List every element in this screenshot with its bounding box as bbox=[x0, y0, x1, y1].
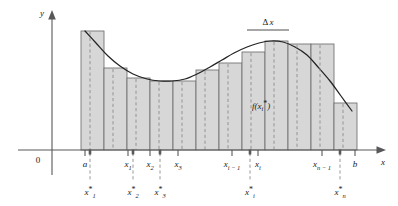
sample-label-x2-star: x*2 bbox=[126, 185, 139, 200]
riemann-rectangle bbox=[311, 44, 334, 150]
riemann-sum-figure: y x 0 ax1x2x3xi − 1xixn − 1b x*1x*2x*3x*… bbox=[0, 0, 398, 206]
riemann-rectangle bbox=[288, 44, 311, 150]
partition-label-a: a bbox=[83, 159, 88, 169]
sample-tick-x1-star bbox=[89, 150, 92, 155]
partition-label-xn-1: xn − 1 bbox=[312, 159, 331, 171]
partition-label-x3: x3 bbox=[173, 159, 182, 171]
partition-point-labels: ax1x2x3xi − 1xixn − 1b bbox=[83, 159, 358, 171]
partition-tick-marks bbox=[85, 150, 355, 156]
delta-x-label: Δx bbox=[263, 17, 274, 27]
sample-tick-x2-star bbox=[132, 150, 135, 155]
sample-tick-xn-star bbox=[339, 150, 342, 155]
riemann-rectangle bbox=[196, 70, 219, 150]
riemann-rectangle bbox=[127, 78, 150, 150]
sample-label-xi-star: x*i bbox=[244, 185, 255, 200]
function-value-label: f(xi*) bbox=[252, 99, 270, 112]
y-axis-label: y bbox=[39, 8, 44, 18]
riemann-rectangles bbox=[81, 31, 357, 150]
x-axis-arrowhead bbox=[377, 146, 387, 154]
riemann-rectangle bbox=[173, 81, 196, 150]
sample-label-x3-star: x*3 bbox=[153, 185, 166, 200]
sample-label-xn-star: x*n bbox=[333, 185, 345, 200]
sample-tick-x3-star bbox=[159, 150, 162, 155]
riemann-rectangle bbox=[104, 68, 127, 150]
partition-label-x1: x1 bbox=[123, 159, 131, 171]
riemann-rectangle bbox=[150, 81, 173, 150]
riemann-rectangle bbox=[265, 41, 288, 150]
delta-x-annotation: Δx bbox=[247, 17, 289, 30]
x-axis-label: x bbox=[380, 157, 385, 167]
sample-label-x1-star: x*1 bbox=[83, 185, 95, 200]
riemann-sum-svg: y x 0 ax1x2x3xi − 1xixn − 1b x*1x*2x*3x*… bbox=[0, 0, 398, 206]
partition-label-x2: x2 bbox=[145, 159, 154, 171]
sample-point-labels: x*1x*2x*3x*ix*n bbox=[83, 185, 345, 200]
riemann-rectangle bbox=[219, 63, 242, 150]
origin-label: 0 bbox=[36, 155, 41, 165]
sample-tick-xi-star bbox=[249, 150, 252, 155]
partition-label-xi: xi bbox=[254, 159, 261, 171]
partition-label-xi-1: xi − 1 bbox=[223, 159, 241, 171]
riemann-rectangle bbox=[334, 103, 357, 150]
y-axis-arrowhead bbox=[48, 10, 56, 20]
partition-label-b: b bbox=[353, 159, 358, 169]
